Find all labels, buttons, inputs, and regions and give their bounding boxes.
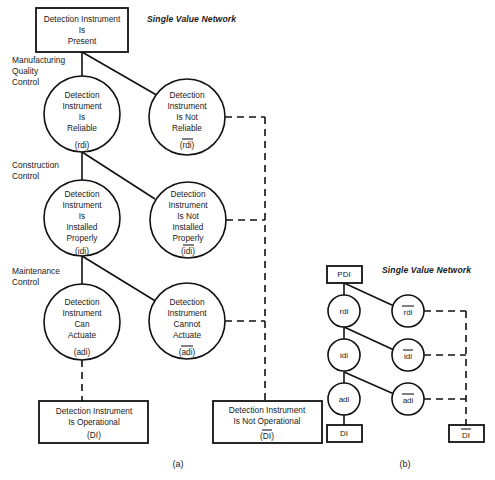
node-idi-bar-line3: Is Not xyxy=(177,211,199,221)
root-box-a-line1: Detection Instrument xyxy=(44,14,121,24)
node-b-adi-bar-label: adi xyxy=(403,396,414,405)
figure-single-value-network: Single Value Network Manufacturing Quali… xyxy=(0,0,495,480)
node-idi[interactable]: Detection Instrument Is Installed Proper… xyxy=(44,180,120,256)
node-adi-code: (adi) xyxy=(74,347,91,357)
node-adi-line4: Actuate xyxy=(68,330,97,340)
outcome-box-b-di-bar[interactable]: DI xyxy=(449,425,484,442)
outcome-box-di-bar-line1: Detection Instrument xyxy=(229,405,306,415)
root-box-a-line2: Is xyxy=(79,25,85,35)
dashed-edges-b xyxy=(424,311,466,425)
tier-label-manufacturing-line2: Quality xyxy=(12,66,39,76)
node-b-rdi-bar-label: rdi xyxy=(404,308,413,317)
outcome-box-di-line2: Is Operational xyxy=(68,417,120,427)
tier-label-manufacturing-line1: Manufacturing xyxy=(12,55,65,65)
title-b: Single Value Network xyxy=(382,265,472,275)
tier-label-maintenance-line1: Maintenance xyxy=(12,266,60,276)
node-adi-line2: Instrument xyxy=(62,308,102,318)
node-adi-bar[interactable]: Detection Instrument Cannot Actuate (adi… xyxy=(149,283,225,359)
dashed-edges-a xyxy=(82,117,265,401)
node-rdi-code: (rdi) xyxy=(75,140,90,150)
node-adi-bar-line2: Instrument xyxy=(167,308,207,318)
node-rdi-bar[interactable]: Detection Instrument Is Not Reliable (rd… xyxy=(149,79,225,155)
node-idi-line2: Instrument xyxy=(62,200,102,210)
node-idi-line1: Detection xyxy=(64,189,99,199)
node-idi-bar-line5: Properly xyxy=(173,233,205,243)
node-idi-line3: Is xyxy=(79,211,85,221)
outcome-box-di[interactable]: Detection Instrument Is Operational (DI) xyxy=(39,401,148,443)
tier-label-manufacturing: Manufacturing Quality Control xyxy=(12,55,65,87)
tier-label-construction-line2: Control xyxy=(12,171,39,181)
outcome-box-b-di[interactable]: DI xyxy=(327,425,362,442)
node-idi-bar-line1: Detection xyxy=(170,189,205,199)
node-rdi-bar-line4: Reliable xyxy=(172,123,202,133)
title-a: Single Value Network xyxy=(147,14,237,24)
node-b-adi-bar[interactable]: adi xyxy=(392,383,424,415)
node-b-adi[interactable]: adi xyxy=(328,383,360,415)
node-idi-bar-code: (idi) xyxy=(181,246,195,256)
node-rdi-line3: Is xyxy=(79,112,85,122)
node-rdi-bar-code: (rdi) xyxy=(180,140,195,150)
node-adi-bar-line1: Detection xyxy=(169,297,204,307)
outcome-box-b-di-label: DI xyxy=(340,429,348,438)
outcome-box-di-bar-line2: Is Not Operational xyxy=(234,416,301,426)
root-box-a[interactable]: Detection Instrument Is Present xyxy=(36,8,128,52)
node-b-idi-label: idi xyxy=(340,351,348,360)
tier-label-construction-line1: Construction xyxy=(12,160,59,170)
outcome-box-di-bar[interactable]: Detection Instrument Is Not Operational … xyxy=(213,401,322,443)
outcome-box-b-di-bar-label: DI xyxy=(462,431,470,440)
node-adi-line1: Detection xyxy=(64,297,99,307)
node-rdi-line1: Detection xyxy=(64,90,99,100)
node-idi-bar[interactable]: Detection Instrument Is Not Installed Pr… xyxy=(150,182,226,258)
outcome-box-di-bar-code: (DI) xyxy=(260,431,274,441)
node-b-adi-label: adi xyxy=(339,395,350,404)
tier-label-construction: Construction Control xyxy=(12,160,59,181)
node-b-rdi-bar[interactable]: rdi xyxy=(392,295,424,327)
node-b-idi-bar-label: idi xyxy=(404,352,412,361)
node-rdi-line4: Reliable xyxy=(67,123,97,133)
node-idi-bar-line2: Instrument xyxy=(168,200,208,210)
node-b-rdi[interactable]: rdi xyxy=(328,295,360,327)
caption-b: (b) xyxy=(400,459,411,469)
node-rdi-bar-line3: Is Not xyxy=(176,112,198,122)
node-adi-bar-code: (adi) xyxy=(179,347,196,357)
node-rdi-line2: Instrument xyxy=(62,101,102,111)
node-adi[interactable]: Detection Instrument Can Actuate (adi) xyxy=(44,284,120,360)
caption-a: (a) xyxy=(173,459,184,469)
node-rdi-bar-line2: Instrument xyxy=(167,101,207,111)
node-idi-line5: Properly xyxy=(67,233,99,243)
node-rdi-bar-line1: Detection xyxy=(169,90,204,100)
tier-label-maintenance-line2: Control xyxy=(12,277,39,287)
node-b-idi-bar[interactable]: idi xyxy=(392,339,424,371)
root-box-a-line3: Present xyxy=(68,36,97,46)
tier-label-maintenance: Maintenance Control xyxy=(12,266,60,287)
node-idi-bar-line4: Installed xyxy=(173,222,204,232)
tier-label-manufacturing-line3: Control xyxy=(12,77,39,87)
node-rdi[interactable]: Detection Instrument Is Reliable (rdi) xyxy=(44,76,120,152)
node-idi-code: (idi) xyxy=(75,246,89,256)
root-box-b-label: PDI xyxy=(337,270,350,279)
node-b-idi[interactable]: idi xyxy=(328,339,360,371)
root-box-b[interactable]: PDI xyxy=(327,266,362,283)
node-idi-line4: Installed xyxy=(67,222,98,232)
node-adi-line3: Can xyxy=(74,319,90,329)
outcome-box-di-line1: Detection Instrument xyxy=(56,406,133,416)
node-b-rdi-label: rdi xyxy=(340,307,349,316)
node-adi-bar-line3: Cannot xyxy=(174,319,201,329)
outcome-box-di-code: (DI) xyxy=(87,430,101,440)
node-adi-bar-line4: Actuate xyxy=(173,330,202,340)
